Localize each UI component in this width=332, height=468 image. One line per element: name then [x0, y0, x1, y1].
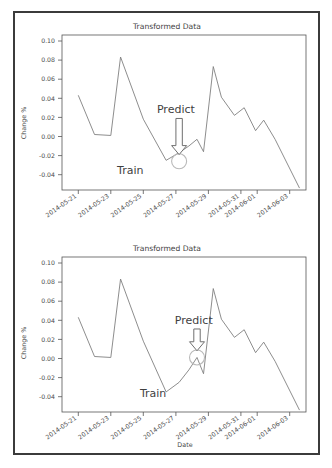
x-tick-label: 2014-05-29 — [174, 192, 208, 218]
y-tick-label: -0.02 — [39, 152, 55, 159]
y-tick-label: 0.10 — [41, 37, 55, 44]
train-label: Train — [116, 164, 143, 177]
y-tick-label: 0.02 — [41, 336, 55, 343]
y-tick-label: 0.00 — [41, 355, 55, 362]
y-tick-label: 0.10 — [41, 259, 55, 266]
line-chart-bottom: Transformed Data Change % 0.10 0.08 0.06… — [15, 235, 320, 455]
x-axis-label: Date — [177, 441, 192, 449]
x-tick-label: 2014-05-21 — [44, 192, 78, 218]
x-tick-label: 2014-06-03 — [255, 192, 289, 218]
figure-frame: Transformed Data Change % 0.10 0.08 0.06… — [13, 11, 320, 455]
y-axis-label: Change % — [20, 327, 28, 360]
x-tick-label: 2014-05-21 — [44, 414, 78, 440]
y-tick-label: 0.06 — [41, 297, 55, 304]
x-tick-label: 2014-05-23 — [77, 414, 111, 440]
chart-title: Transformed Data — [132, 22, 201, 31]
predict-annotation: Predict — [157, 103, 196, 168]
chart-panel-bottom: Transformed Data Change % 0.10 0.08 0.06… — [15, 235, 320, 455]
predict-label: Predict — [175, 314, 214, 327]
y-tick-label: 0.08 — [41, 278, 55, 285]
y-axis-ticks: 0.10 0.08 0.06 0.04 0.02 0.00 -0.02 -0.0… — [39, 259, 62, 400]
plot-area-frame — [62, 257, 306, 412]
y-tick-label: 0.04 — [41, 95, 55, 102]
x-tick-label: 2014-06-03 — [255, 414, 289, 440]
data-series-line — [78, 279, 299, 410]
line-chart-top: Transformed Data Change % 0.10 0.08 0.06… — [15, 13, 320, 235]
x-tick-label: 2014-05-27 — [142, 192, 176, 218]
y-tick-label: 0.00 — [41, 133, 55, 140]
x-tick-label: 2014-05-23 — [77, 192, 111, 218]
predict-marker-circle — [172, 154, 187, 169]
y-axis-ticks: 0.10 0.08 0.06 0.04 0.02 0.00 -0.02 -0.0… — [39, 37, 62, 178]
y-tick-label: 0.08 — [41, 56, 55, 63]
chart-panel-top: Transformed Data Change % 0.10 0.08 0.06… — [15, 13, 320, 235]
y-tick-label: 0.06 — [41, 75, 55, 82]
x-axis-ticks: 2014-05-21 2014-05-23 2014-05-25 2014-05… — [44, 190, 290, 218]
x-tick-label: 2014-05-25 — [109, 414, 143, 440]
predict-arrow-icon — [190, 329, 205, 351]
chart-title: Transformed Data — [132, 244, 201, 253]
y-tick-label: 0.04 — [41, 317, 55, 324]
y-tick-label: -0.04 — [39, 171, 55, 178]
y-axis-label: Change % — [20, 107, 28, 140]
train-label: Train — [139, 387, 166, 400]
predict-label: Predict — [157, 103, 196, 116]
x-tick-label: 2014-05-25 — [109, 192, 143, 218]
x-axis-ticks: 2014-05-21 2014-05-23 2014-05-25 2014-05… — [44, 412, 290, 440]
y-tick-label: -0.04 — [39, 393, 55, 400]
y-tick-label: 0.02 — [41, 114, 55, 121]
x-tick-label: 2014-05-27 — [142, 414, 176, 440]
y-tick-label: -0.02 — [39, 374, 55, 381]
x-tick-label: 2014-05-29 — [174, 414, 208, 440]
data-series-line — [78, 57, 299, 188]
